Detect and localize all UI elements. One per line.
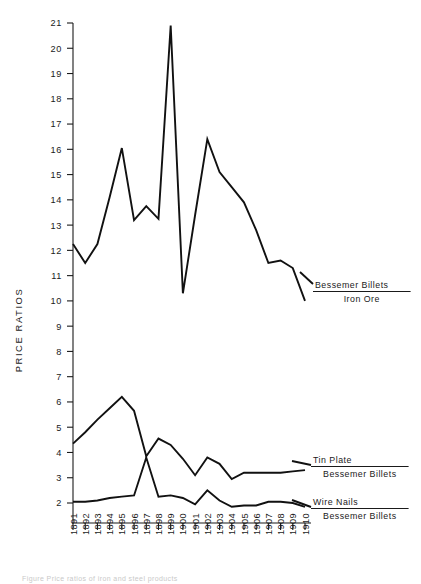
x-tick-label: 1897 — [142, 513, 152, 535]
y-tick-label: 11 — [51, 271, 62, 281]
x-tick-label: 1903 — [215, 513, 225, 535]
x-tick-label: 1909 — [288, 513, 298, 535]
y-axis-title: PRICE RATIOS — [13, 288, 24, 373]
legend-denominator-1: Bessemer Billets — [323, 469, 397, 479]
y-tick-label: 3 — [56, 473, 62, 483]
x-tick-label: 1891 — [69, 513, 79, 535]
y-tick-label: 6 — [56, 397, 62, 407]
legend-leader-line-1 — [292, 461, 311, 465]
y-tick-label: 15 — [51, 170, 62, 180]
x-tick-label: 1894 — [105, 513, 115, 535]
y-tick-label: 8 — [56, 347, 62, 357]
x-tick-label: 1910 — [301, 513, 311, 535]
legend-denominator-0: Iron Ore — [344, 294, 380, 304]
y-tick-label: 19 — [51, 69, 62, 79]
y-tick-label: 14 — [51, 195, 62, 205]
x-tick-label: 1908 — [276, 513, 286, 535]
legend-numerator-2: Wire Nails — [313, 497, 358, 507]
legend-denominator-2: Bessemer Billets — [323, 511, 397, 521]
y-tick-label: 9 — [56, 322, 62, 332]
y-tick-label: 7 — [56, 372, 62, 382]
series-bessemer-billets-iron-ore — [73, 26, 305, 301]
x-tick-label: 1899 — [166, 513, 176, 535]
y-tick-label: 16 — [51, 145, 62, 155]
x-tick-label: 1904 — [227, 513, 237, 535]
x-tick-label: 1905 — [240, 513, 250, 535]
y-tick-label: 21 — [51, 18, 62, 28]
x-tick-label: 1892 — [81, 513, 91, 535]
y-tick-label: 10 — [51, 296, 62, 306]
y-tick-label: 20 — [51, 44, 62, 54]
x-tick-label: 1902 — [203, 513, 213, 535]
x-tick-label: 1907 — [264, 513, 274, 535]
y-tick-label: 13 — [51, 221, 62, 231]
y-tick-label: 5 — [56, 423, 62, 433]
series-wire-nails-bessemer-billets — [73, 458, 305, 507]
x-tick-label: 1901 — [191, 513, 201, 535]
y-tick-label: 12 — [51, 246, 62, 256]
y-tick-label: 17 — [51, 119, 62, 129]
price-ratios-chart: 2345678910111213141516171819202118911892… — [0, 0, 421, 584]
series-tin-plate-bessemer-billets — [73, 397, 305, 479]
x-tick-label: 1895 — [117, 513, 127, 535]
legend-numerator-0: Bessemer Billets — [315, 280, 389, 290]
y-tick-label: 4 — [56, 448, 62, 458]
x-tick-label: 1893 — [93, 513, 103, 535]
x-tick-label: 1898 — [154, 513, 164, 535]
x-tick-label: 1896 — [130, 513, 140, 535]
y-tick-label: 2 — [56, 498, 62, 508]
legend-leader-line-0 — [300, 272, 313, 284]
x-tick-label: 1906 — [252, 513, 262, 535]
x-tick-label: 1900 — [178, 513, 188, 535]
chart-canvas: 2345678910111213141516171819202118911892… — [0, 0, 421, 584]
figure-caption: Figure Price ratios of iron and steel pr… — [22, 575, 178, 583]
y-tick-label: 18 — [51, 94, 62, 104]
legend-numerator-1: Tin Plate — [313, 455, 352, 465]
